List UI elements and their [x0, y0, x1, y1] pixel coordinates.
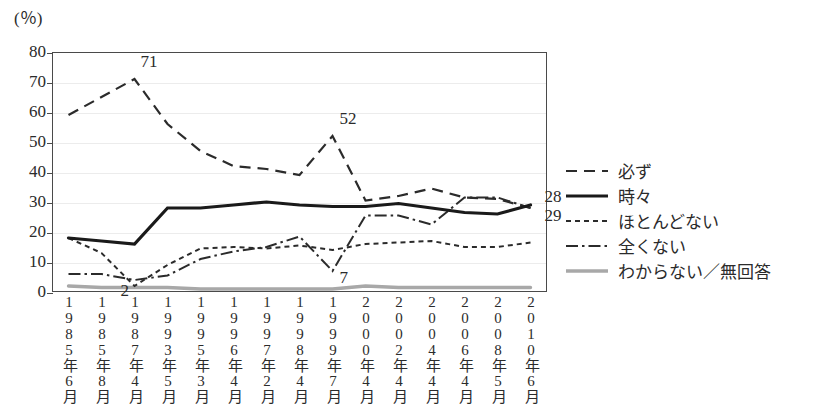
y-axis-unit-label: (％) [14, 4, 42, 29]
x-axis-tick-label: 2002年4月 [391, 294, 406, 404]
legend-item-時々[interactable]: 時々 [565, 183, 815, 208]
x-axis-tick-label: 1999年7月 [325, 294, 340, 404]
series-line-わからない／無回答 [69, 286, 531, 289]
y-axis-tick-labels: 01020304050607080 [0, 52, 46, 292]
legend-swatch-icon [565, 164, 609, 178]
legend-label: わからない／無回答 [618, 258, 771, 283]
y-axis-tick-label: 60 [29, 103, 46, 120]
legend-label: 全くない [618, 233, 686, 258]
chart-legend: 必ず時々ほとんどない全くないわからない／無回答 [565, 158, 815, 283]
legend-item-わからない／無回答[interactable]: わからない／無回答 [565, 258, 815, 283]
data-label-7: 7 [340, 269, 349, 286]
data-label-28: 28 [545, 188, 562, 205]
x-axis-tick-label: 1985年6月 [61, 294, 76, 404]
legend-swatch-icon [565, 239, 609, 253]
legend-item-全くない[interactable]: 全くない [565, 233, 815, 258]
y-axis-tick-label: 30 [29, 193, 46, 210]
y-axis-tick-label: 0 [38, 283, 47, 300]
y-axis-tick-label: 10 [29, 253, 46, 270]
y-axis-tick-label: 70 [29, 73, 46, 90]
x-axis-tick-label: 1997年2月 [259, 294, 274, 404]
x-axis-tick-label: 2000年4月 [358, 294, 373, 404]
chart-container: (％) 01020304050607080 7152282927 1985年6月… [0, 0, 825, 407]
legend-item-必ず[interactable]: 必ず [565, 158, 815, 183]
legend-label: ほとんどない [618, 208, 719, 233]
x-axis-tick-label: 2004年4月 [424, 294, 439, 404]
y-axis-tick-label: 20 [29, 223, 46, 240]
chart-lines [52, 52, 547, 292]
data-label-29: 29 [545, 207, 562, 224]
x-axis-tick-label: 1985年8月 [94, 294, 109, 404]
legend-label: 時々 [618, 183, 652, 208]
series-line-必ず [69, 79, 531, 208]
data-label-52: 52 [340, 110, 357, 127]
x-axis-tick-labels: 1985年6月1985年8月1987年4月1993年5月1995年3月1996年… [52, 294, 547, 399]
series-line-時々 [69, 202, 531, 244]
legend-swatch-icon [565, 264, 609, 278]
y-axis-tick-label: 50 [29, 133, 46, 150]
legend-label: 必ず [618, 158, 652, 183]
x-axis-tick-label: 1995年3月 [193, 294, 208, 404]
x-axis-tick-label: 1996年4月 [226, 294, 241, 404]
x-axis-tick-label: 1993年5月 [160, 294, 175, 404]
x-axis-tick-label: 2010年6月 [523, 294, 538, 404]
x-axis-tick-label: 1987年4月 [127, 294, 142, 404]
legend-swatch-icon [565, 214, 609, 228]
data-label-71: 71 [141, 53, 158, 70]
x-axis-tick-label: 2006年4月 [457, 294, 472, 404]
legend-item-ほとんどない[interactable]: ほとんどない [565, 208, 815, 233]
y-axis-tick-label: 40 [29, 163, 46, 180]
y-axis-tick-label: 80 [29, 43, 46, 60]
x-axis-tick-label: 1998年4月 [292, 294, 307, 404]
legend-swatch-icon [565, 189, 609, 203]
x-axis-tick-label: 2008年5月 [490, 294, 505, 404]
